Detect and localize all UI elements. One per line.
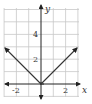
x-tick-neg2: -2 <box>12 86 20 95</box>
y-tick-4: 4 <box>33 30 38 39</box>
x-tick-2: 2 <box>63 86 68 95</box>
x-axis-label: x <box>82 85 87 95</box>
y-axis-label: y <box>44 4 51 14</box>
graph: y x -2 2 2 4 <box>0 0 92 104</box>
y-tick-2: 2 <box>33 55 38 64</box>
